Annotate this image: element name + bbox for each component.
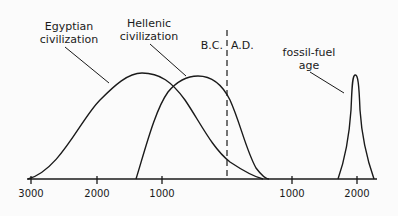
- egyptian-curve: [28, 73, 263, 179]
- fossil-fuel-label-line2: age: [299, 59, 320, 72]
- hellenic-label-line1: Hellenic: [127, 17, 171, 30]
- egyptian-leader-line: [65, 47, 109, 83]
- egyptian-label-line2: civilization: [40, 33, 98, 46]
- hellenic-label-line2: civilization: [120, 30, 178, 43]
- bc-label: B.C.: [201, 39, 223, 52]
- fossil-fuel-leader-line: [310, 72, 344, 93]
- civilization-timeline-diagram: 3000 2000 1000 1000 2000 Egyptian civili…: [0, 0, 398, 216]
- tick-label-1000bc: 1000: [149, 188, 174, 199]
- fossil-fuel-label-line1: fossil-fuel: [283, 46, 336, 59]
- tick-label-3000bc: 3000: [18, 188, 43, 199]
- axis-ticks: [31, 176, 357, 184]
- hellenic-leader-line: [150, 44, 186, 76]
- ad-label: A.D.: [231, 39, 254, 52]
- tick-label-2000bc: 2000: [84, 188, 109, 199]
- tick-label-2000ad: 2000: [344, 188, 369, 199]
- fossil-fuel-curve: [338, 75, 374, 179]
- egyptian-label-line1: Egyptian: [45, 20, 94, 33]
- tick-label-1000ad: 1000: [279, 188, 304, 199]
